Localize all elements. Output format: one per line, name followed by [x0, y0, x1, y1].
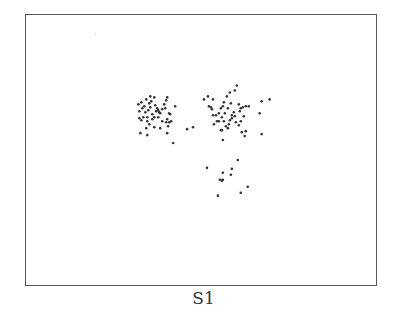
- data-point: [238, 110, 241, 113]
- data-point: [137, 103, 140, 106]
- data-point: [153, 96, 156, 99]
- data-point: [223, 101, 226, 104]
- data-point: [161, 120, 164, 123]
- data-point: [143, 105, 146, 108]
- data-point: [218, 112, 221, 115]
- data-point: [157, 116, 160, 119]
- data-point: [148, 102, 151, 105]
- data-point: [235, 121, 238, 124]
- data-point: [166, 118, 169, 121]
- data-point: [151, 118, 154, 121]
- data-point: [146, 116, 149, 119]
- data-point: [213, 123, 216, 126]
- data-point: [227, 107, 230, 110]
- data-point: [244, 130, 247, 133]
- data-point: [145, 127, 148, 130]
- data-point: [240, 131, 243, 134]
- data-point: [227, 127, 230, 130]
- data-point: [140, 119, 143, 122]
- data-point: [225, 125, 228, 128]
- data-point: [239, 120, 242, 123]
- data-point: [226, 95, 229, 98]
- data-point: [229, 119, 232, 122]
- data-point: [258, 112, 261, 115]
- data-point: [151, 113, 154, 116]
- data-point: [231, 168, 234, 171]
- data-point: [236, 84, 239, 87]
- data-point: [212, 98, 215, 101]
- data-point: [222, 139, 225, 142]
- data-point: [138, 110, 141, 113]
- data-point: [211, 108, 214, 111]
- data-point: [216, 120, 219, 123]
- data-point: [243, 135, 246, 138]
- data-point: [237, 103, 240, 106]
- data-point: [247, 105, 250, 108]
- data-point: [233, 111, 236, 114]
- data-point: [174, 105, 177, 108]
- data-point: [231, 117, 234, 120]
- series-cluster-left: [137, 95, 176, 144]
- data-point: [260, 133, 263, 136]
- data-point: [222, 172, 225, 175]
- series-cluster-right: [186, 84, 271, 141]
- series-cluster-bottom: [206, 159, 249, 197]
- data-point: [153, 126, 156, 129]
- data-point: [166, 96, 169, 99]
- data-point: [239, 191, 242, 194]
- data-point: [169, 113, 172, 116]
- data-point: [142, 116, 145, 119]
- data-point: [237, 124, 240, 127]
- data-point: [149, 106, 152, 109]
- data-point: [203, 98, 206, 101]
- data-point: [224, 112, 227, 115]
- data-point: [159, 127, 162, 130]
- data-point: [207, 95, 210, 98]
- data-point: [260, 100, 263, 103]
- data-point: [230, 102, 233, 105]
- data-point: [230, 174, 233, 177]
- data-point: [212, 114, 215, 117]
- data-point: [234, 89, 237, 92]
- data-point: [241, 106, 244, 109]
- data-point: [149, 95, 152, 98]
- data-point: [172, 142, 175, 145]
- data-point: [215, 114, 218, 117]
- data-point: [246, 185, 249, 188]
- data-point: [165, 99, 168, 102]
- plot-frame: [25, 14, 377, 286]
- data-point: [170, 120, 173, 123]
- panel-caption: S1: [0, 288, 407, 308]
- data-point: [144, 111, 147, 114]
- scatter-plot: [26, 15, 376, 285]
- data-point: [165, 121, 168, 124]
- data-point: [192, 126, 195, 129]
- data-point: [138, 117, 141, 120]
- data-point: [145, 98, 148, 101]
- data-point: [163, 103, 166, 106]
- data-point: [221, 116, 224, 119]
- data-point: [268, 98, 271, 101]
- data-point: [167, 125, 170, 128]
- series-outlier: [95, 33, 96, 34]
- data-point: [217, 194, 220, 197]
- data-point: [139, 132, 142, 135]
- data-point: [159, 112, 162, 115]
- data-point: [231, 114, 234, 117]
- data-point: [186, 128, 189, 131]
- data-point: [164, 107, 167, 110]
- data-point: [141, 107, 144, 110]
- data-point: [221, 129, 224, 132]
- data-point: [166, 132, 169, 135]
- data-point: [234, 115, 237, 118]
- data-point: [95, 33, 96, 34]
- data-point: [228, 123, 231, 126]
- data-point: [242, 115, 245, 118]
- data-point: [150, 100, 153, 103]
- data-point: [153, 116, 156, 119]
- data-point: [236, 159, 239, 162]
- data-point: [222, 178, 225, 181]
- data-point: [146, 134, 149, 137]
- data-point: [161, 108, 164, 111]
- data-point: [140, 101, 143, 104]
